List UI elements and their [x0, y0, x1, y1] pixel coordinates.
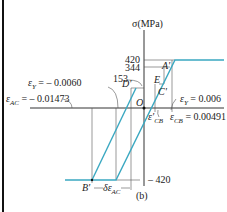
point-o-label: O — [136, 98, 143, 108]
point-e-label: E — [154, 75, 160, 85]
tick-neg-420: – 420 — [148, 175, 171, 185]
stress-strain-diagram — [0, 0, 227, 212]
stress-axis-label: σ(MPa) — [132, 19, 163, 29]
eps-y-positive-annotation: εY = 0.006 — [180, 94, 221, 104]
point-c-label: C' — [158, 87, 167, 97]
point-d-label: D' — [122, 79, 131, 89]
point-a-label: A' — [162, 61, 170, 71]
figure-caption: (b) — [136, 191, 148, 201]
point-b — [91, 179, 93, 181]
eps-ac-annotation: εAC = – 0.01473 — [6, 94, 70, 104]
eps-cb-prime-annotation: ε′CB — [148, 112, 163, 122]
eps-cb-annotation: εCB = 0.00491 — [170, 112, 226, 122]
tick-344: 344 — [125, 63, 140, 73]
eps-y-negative-annotation: εY = – 0.0060 — [28, 78, 82, 88]
point-b-label: B' — [82, 183, 90, 193]
delta-eps-ac-annotation: δεAC — [103, 183, 121, 193]
